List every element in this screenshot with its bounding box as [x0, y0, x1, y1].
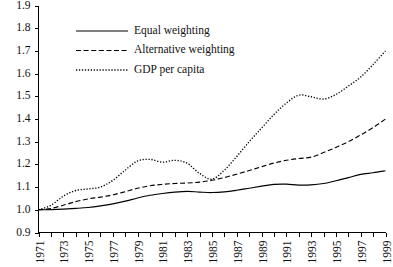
series-line-dotted	[39, 51, 386, 210]
y-axis-tick-label: 1.8	[16, 21, 31, 33]
chart-canvas: 0.91.01.11.21.31.41.51.61.71.81.91971197…	[0, 0, 393, 267]
x-axis-tick-label: 1995	[331, 240, 343, 263]
x-axis-tick-label: 1989	[257, 240, 269, 263]
series-line-dashed	[39, 119, 386, 210]
series-line-solid	[39, 171, 386, 210]
y-axis-tick-label: 1.3	[16, 135, 31, 147]
x-axis-tick-label: 1981	[157, 240, 169, 263]
y-axis-tick-label: 1.0	[16, 203, 31, 215]
y-axis-tick-label: 1.5	[16, 89, 31, 101]
legend-label: Equal weighting	[134, 24, 210, 37]
y-axis-tick-label: 1.9	[16, 0, 31, 11]
line-chart: 0.91.01.11.21.31.41.51.61.71.81.91971197…	[0, 0, 393, 267]
x-axis-tick-label: 1983	[182, 240, 194, 263]
x-axis-tick-label: 1991	[281, 240, 293, 263]
x-axis-tick-label: 1993	[306, 240, 318, 263]
y-axis-tick-label: 1.7	[16, 44, 31, 56]
y-axis-tick-label: 1.4	[16, 112, 31, 124]
y-axis-tick-label: 0.9	[16, 226, 31, 238]
x-axis-tick-label: 1973	[58, 240, 70, 263]
x-axis-tick-label: 1977	[108, 240, 120, 263]
legend: Equal weightingAlternative weightingGDP …	[76, 24, 235, 76]
legend-label: Alternative weighting	[134, 43, 235, 56]
legend-label: GDP per capita	[134, 63, 204, 76]
y-axis: 0.91.01.11.21.31.41.51.61.71.81.9	[16, 0, 38, 238]
x-axis: 1971197319751977197919811983198519871989…	[34, 233, 393, 264]
series-group	[39, 51, 386, 210]
x-axis-tick-label: 1975	[83, 240, 95, 263]
x-axis-tick-label: 1997	[356, 240, 368, 263]
x-axis-tick-label: 1971	[34, 240, 46, 263]
y-axis-tick-label: 1.1	[16, 180, 31, 192]
x-axis-tick-label: 1979	[133, 240, 145, 263]
x-axis-tick-label: 1987	[232, 240, 244, 263]
y-axis-tick-label: 1.6	[16, 67, 31, 79]
y-axis-tick-label: 1.2	[16, 157, 31, 169]
x-axis-tick-label: 1985	[207, 240, 219, 263]
x-axis-tick-label: 1999	[381, 240, 393, 263]
